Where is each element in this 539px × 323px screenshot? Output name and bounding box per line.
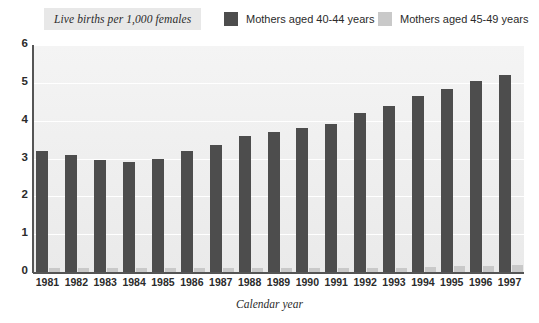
bar-40-44-1991[interactable] <box>325 124 337 272</box>
bar-group-1995 <box>441 45 465 272</box>
bar-40-44-1987[interactable] <box>210 145 222 272</box>
legend-item-mothers-40-44[interactable]: Mothers aged 40-44 years <box>224 10 374 28</box>
bar-40-44-1997[interactable] <box>499 75 511 272</box>
x-axis-title: Calendar year <box>0 298 539 310</box>
bar-40-44-1990[interactable] <box>296 128 308 272</box>
legend-swatch-light-icon <box>378 12 392 26</box>
bar-40-44-1988[interactable] <box>239 136 251 272</box>
bar-40-44-1983[interactable] <box>94 160 106 272</box>
legend-label-mothers-40-44: Mothers aged 40-44 years <box>246 13 374 25</box>
chart-root: Live births per 1,000 females Mothers ag… <box>0 0 539 323</box>
y-tick-label-5: 5 <box>8 75 28 87</box>
bar-40-44-1981[interactable] <box>36 151 48 272</box>
bar-group-1989 <box>268 45 292 272</box>
bar-group-1988 <box>239 45 263 272</box>
legend-label-mothers-45-49: Mothers aged 45-49 years <box>400 13 528 25</box>
bar-group-1983 <box>94 45 118 272</box>
bar-40-44-1992[interactable] <box>354 113 366 272</box>
y-tick-label-2: 2 <box>8 188 28 200</box>
bar-40-44-1982[interactable] <box>65 155 77 272</box>
chart-title: Live births per 1,000 females <box>54 13 191 25</box>
plot-area <box>33 45 524 272</box>
bar-group-1991 <box>325 45 349 272</box>
bar-group-1981 <box>36 45 60 272</box>
bar-45-49-1997[interactable] <box>512 265 523 272</box>
bar-group-1986 <box>181 45 205 272</box>
y-tick-label-6: 6 <box>8 37 28 49</box>
y-tick-label-3: 3 <box>8 151 28 163</box>
bar-group-1990 <box>296 45 320 272</box>
chart-title-band: Live births per 1,000 females <box>44 8 201 30</box>
bar-group-1997 <box>499 45 523 272</box>
bar-40-44-1993[interactable] <box>383 106 395 272</box>
bar-group-1985 <box>152 45 176 272</box>
bar-40-44-1995[interactable] <box>441 89 453 272</box>
x-tick-label-1997: 1997 <box>493 276 527 288</box>
bar-group-1993 <box>383 45 407 272</box>
bar-group-1992 <box>354 45 378 272</box>
y-axis-line <box>32 45 34 273</box>
bar-group-1984 <box>123 45 147 272</box>
bar-group-1996 <box>470 45 494 272</box>
bar-40-44-1984[interactable] <box>123 162 135 272</box>
x-axis-line <box>33 272 524 274</box>
bar-40-44-1996[interactable] <box>470 81 482 272</box>
bar-group-1982 <box>65 45 89 272</box>
legend-item-mothers-45-49[interactable]: Mothers aged 45-49 years <box>378 10 528 28</box>
chart-header: Live births per 1,000 females Mothers ag… <box>0 8 539 32</box>
bar-40-44-1994[interactable] <box>412 96 424 272</box>
bar-group-1994 <box>412 45 436 272</box>
y-tick-label-1: 1 <box>8 226 28 238</box>
bar-40-44-1985[interactable] <box>152 159 164 273</box>
y-tick-label-4: 4 <box>8 113 28 125</box>
bar-group-1987 <box>210 45 234 272</box>
legend-swatch-dark-icon <box>224 12 238 26</box>
bar-40-44-1989[interactable] <box>268 132 280 272</box>
bar-40-44-1986[interactable] <box>181 151 193 272</box>
y-tick-label-0: 0 <box>8 264 28 276</box>
